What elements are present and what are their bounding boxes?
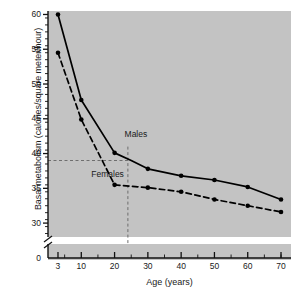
data-point-females xyxy=(245,203,250,208)
data-point-males xyxy=(179,174,184,179)
data-point-females xyxy=(56,50,61,55)
x-tick-label: 30 xyxy=(138,261,158,271)
data-point-males xyxy=(279,197,284,202)
basal-metabolism-chart: Basal metabolism (calories/square meter/… xyxy=(0,0,299,287)
x-tick-label: 40 xyxy=(171,261,191,271)
data-point-males xyxy=(146,167,151,172)
chart-vector-layer xyxy=(0,0,299,287)
x-tick-label: 50 xyxy=(204,261,224,271)
data-point-females xyxy=(112,183,117,188)
data-point-males xyxy=(112,151,117,156)
x-tick-label: 20 xyxy=(105,261,125,271)
y-tick-label: 40 xyxy=(19,148,41,158)
series-annotation-males: Males xyxy=(125,129,148,139)
y-tick-label: 35 xyxy=(19,183,41,193)
x-axis-title: Age (years) xyxy=(146,277,193,287)
x-tick-label: 70 xyxy=(271,261,291,271)
y-tick-label: 55 xyxy=(19,44,41,54)
data-point-females xyxy=(279,210,284,215)
series-annotation-females: Females xyxy=(91,169,124,179)
y-tick-label-zero: 0 xyxy=(19,253,41,263)
y-tick-label: 60 xyxy=(19,9,41,19)
x-tick-label: 60 xyxy=(238,261,258,271)
data-point-males xyxy=(56,12,61,17)
data-point-females xyxy=(79,117,84,122)
data-point-females xyxy=(212,197,217,202)
x-tick-label: 10 xyxy=(71,261,91,271)
data-point-males xyxy=(79,98,84,103)
data-point-males xyxy=(212,178,217,183)
x-axis-title-wrapper: Age (years) xyxy=(48,271,291,287)
data-point-females xyxy=(179,190,184,195)
y-tick-label: 30 xyxy=(19,218,41,228)
data-point-males xyxy=(245,185,250,190)
x-tick-label: 3 xyxy=(48,261,68,271)
y-tick-label: 45 xyxy=(19,113,41,123)
y-tick-label: 50 xyxy=(19,79,41,89)
data-point-females xyxy=(146,185,151,190)
